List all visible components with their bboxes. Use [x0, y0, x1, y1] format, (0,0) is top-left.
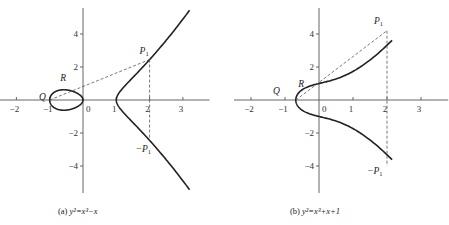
x-tick-label: 0 — [86, 104, 91, 114]
y-tick-label: 2 — [310, 62, 315, 72]
y-tick-label: 2 — [74, 62, 79, 72]
y-tick-label: 4 — [74, 29, 79, 39]
point-label-text: R — [59, 73, 66, 83]
y-tick-label: −4 — [304, 161, 314, 171]
caption-equation: y²=x³−x — [69, 206, 98, 216]
point-label-subscript: 1 — [380, 20, 383, 27]
point-label-r: R — [59, 73, 66, 83]
elliptic-curves-figure: −2−1012342−2−4QRP1−P1(a) y²=x³−x −2−1012… — [0, 0, 449, 225]
point-label-negp1: −P1 — [136, 144, 151, 155]
point-label-text: Q — [273, 86, 280, 96]
panel-a-curve-y2-x3-minus-x: −2−1012342−2−4QRP1−P1(a) y²=x³−x — [0, 8, 210, 216]
x-tick-label: 3 — [417, 104, 422, 114]
point-label-r: R — [297, 79, 304, 89]
point-label-subscript: 1 — [148, 148, 151, 155]
point-label-q: Q — [273, 86, 280, 96]
panel-b-curve-y2-x3-plus-x-plus-1: −2−1012342−2−4QRP1−P1(b) y²=x³+x+1 — [234, 8, 448, 216]
x-tick-label: 2 — [145, 104, 150, 114]
point-label-text: −P — [136, 144, 148, 154]
x-tick-label: 1 — [112, 104, 117, 114]
y-tick-label: −4 — [68, 161, 78, 171]
point-label-p1: P1 — [373, 16, 383, 27]
y-tick-label: −2 — [304, 128, 314, 138]
panel-caption: (b) y²=x³+x+1 — [290, 206, 340, 216]
x-tick-label: −1 — [278, 104, 288, 114]
point-label-subscript: 1 — [379, 170, 382, 177]
x-tick-label: 3 — [179, 104, 184, 114]
caption-equation: y²=x³+x+1 — [301, 206, 340, 216]
x-tick-label: 1 — [349, 104, 354, 114]
x-tick-label: 0 — [322, 104, 327, 114]
point-label-q: Q — [39, 92, 46, 102]
x-tick-label: −2 — [244, 104, 254, 114]
caption-prefix: (a) — [58, 206, 70, 216]
point-label-text: R — [297, 79, 304, 89]
point-label-text: −P — [367, 166, 379, 176]
panel-caption: (a) y²=x³−x — [58, 206, 98, 216]
y-tick-label: −2 — [68, 128, 78, 138]
x-tick-label: −2 — [10, 104, 20, 114]
point-label-p1: P1 — [139, 46, 149, 57]
y-tick-label: 4 — [310, 29, 315, 39]
point-label-subscript: 1 — [145, 50, 148, 57]
point-label-text: Q — [39, 92, 46, 102]
caption-prefix: (b) — [290, 206, 302, 216]
x-tick-label: 2 — [383, 104, 388, 114]
point-label-negp1: −P1 — [367, 166, 382, 177]
